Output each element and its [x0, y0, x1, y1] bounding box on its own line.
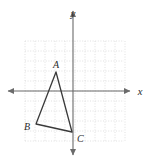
coordinate-plane-figure: ABC x y [0, 0, 158, 163]
vertex-label-c: C [77, 133, 84, 144]
vertex-label-a: A [52, 59, 60, 70]
vertex-label-b: B [24, 121, 30, 132]
x-axis-label: x [137, 86, 143, 97]
y-axis-label: y [70, 8, 76, 19]
coordinate-plane-svg: ABC x y [0, 0, 158, 163]
axes-group [8, 11, 130, 155]
